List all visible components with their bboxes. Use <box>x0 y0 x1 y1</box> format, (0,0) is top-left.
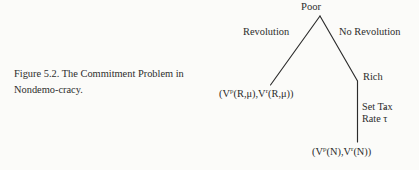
rate-prefix: Rate <box>362 113 383 124</box>
tau-hat-accent: ˆ <box>384 108 387 117</box>
payoff-revolution-close: (R,μ)) <box>268 88 293 99</box>
set-tax-line-2: Rate ˆτ <box>362 113 393 125</box>
edge-label-revolution: Revolution <box>243 26 289 38</box>
figure-container: Figure 5.2. The Commitment Problem in No… <box>0 0 419 170</box>
figure-caption-line-1: Figure 5.2. The Commitment Problem in <box>14 66 214 82</box>
payoff-no-revolution-mid: (N),V <box>327 146 352 157</box>
edge-label-no-revolution: No Revolution <box>339 26 400 38</box>
node-label-rich: Rich <box>363 71 383 83</box>
payoff-no-revolution: (Vp(N),Vr(N)) <box>312 146 371 158</box>
node-label-poor: Poor <box>301 1 321 14</box>
payoff-revolution-open: (V <box>219 88 230 99</box>
tau-hat-symbol: ˆτ <box>383 113 387 125</box>
figure-caption: Figure 5.2. The Commitment Problem in No… <box>14 66 214 98</box>
payoff-no-revolution-open: (V <box>312 146 323 157</box>
edge-label-set-tax-rate: Set Tax Rate ˆτ <box>362 101 393 125</box>
payoff-revolution: (Vp(R,μ),Vr(R,μ)) <box>219 88 293 100</box>
payoff-no-revolution-close: (N)) <box>353 146 371 157</box>
set-tax-line-1: Set Tax <box>362 101 393 113</box>
figure-caption-line-2: Nondemo-cracy. <box>14 82 214 98</box>
payoff-revolution-mid: (R,μ),V <box>234 88 266 99</box>
